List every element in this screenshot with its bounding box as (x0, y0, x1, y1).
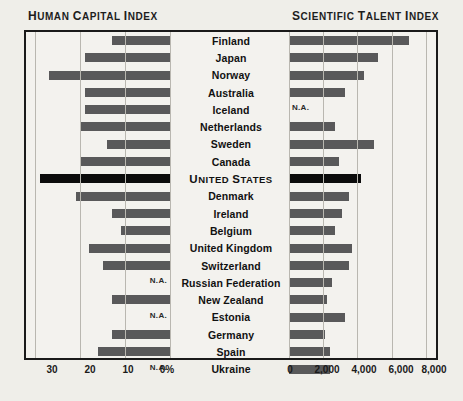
table-row: N.A. (26, 274, 170, 291)
table-row (289, 291, 436, 308)
table-row (26, 222, 170, 239)
bar-human-capital (76, 192, 171, 201)
scientific-talent-bar-rows: N.A. (289, 32, 436, 358)
country-row: Canada (168, 153, 294, 170)
human-capital-index-panel: N.A.N.A.N.A. (26, 32, 170, 358)
country-row: Denmark (168, 188, 294, 205)
bar-scientific-talent (289, 192, 349, 201)
table-row (289, 188, 436, 205)
tick-right-4000: 4,000 (351, 364, 376, 375)
table-row (289, 118, 436, 135)
table-row (289, 240, 436, 257)
country-row: Iceland (168, 101, 294, 118)
country-label: Ireland (213, 208, 248, 220)
bar-human-capital (40, 174, 171, 183)
table-row (289, 222, 436, 239)
bar-scientific-talent (289, 71, 364, 80)
table-row (26, 84, 170, 101)
bar-scientific-talent (289, 313, 345, 322)
country-row: Sweden (168, 136, 294, 153)
table-row (26, 257, 170, 274)
table-row (289, 170, 436, 187)
country-label: Norway (212, 69, 251, 81)
country-label: Russian Federation (181, 277, 280, 289)
tick-right-2000: 2,000 (314, 364, 339, 375)
country-row: Ireland (168, 205, 294, 222)
gridline-left-20 (80, 32, 81, 358)
country-row: New Zealand (168, 291, 294, 308)
country-row: Japan (168, 49, 294, 66)
bar-human-capital (85, 88, 171, 97)
country-row: UNITED STATES (168, 170, 294, 187)
scientific-talent-index-panel: N.A. (289, 32, 436, 358)
country-label: Japan (216, 52, 247, 64)
country-row: Russian Federation (168, 274, 294, 291)
table-row (289, 343, 436, 360)
country-label: Denmark (208, 190, 254, 202)
table-row (26, 118, 170, 135)
human-capital-bar-rows: N.A.N.A.N.A. (26, 32, 170, 358)
bar-scientific-talent (289, 278, 332, 287)
country-label: Iceland (213, 104, 250, 116)
bar-scientific-talent (289, 209, 342, 218)
country-label: Switzerland (201, 260, 260, 272)
bar-scientific-talent (289, 88, 345, 97)
country-label: Sweden (211, 138, 251, 150)
bar-scientific-talent (289, 244, 352, 253)
bar-scientific-talent (289, 140, 374, 149)
country-row: Germany (168, 326, 294, 343)
bar-human-capital (85, 53, 171, 62)
table-row (26, 291, 170, 308)
country-row: Netherlands (168, 118, 294, 135)
table-row (26, 67, 170, 84)
table-row (26, 136, 170, 153)
country-label-column: FinlandJapanNorwayAustraliaIcelandNether… (168, 32, 294, 378)
table-row (26, 326, 170, 343)
country-label: Belgium (210, 225, 252, 237)
bar-human-capital (121, 226, 171, 235)
bar-human-capital (112, 36, 171, 45)
table-row (289, 205, 436, 222)
table-row (289, 257, 436, 274)
gridline-right-4000 (357, 32, 358, 358)
bar-human-capital (112, 209, 171, 218)
bar-scientific-talent (289, 174, 361, 183)
table-row (26, 153, 170, 170)
left-panel-title: HUMAN CAPITAL INDEX (28, 9, 158, 23)
bar-human-capital (103, 261, 171, 270)
table-row: N.A. (26, 309, 170, 326)
country-label: Estonia (212, 311, 251, 323)
bar-human-capital (112, 330, 171, 339)
tick-right-8000: 8,000 (421, 364, 446, 375)
country-label: United Kingdom (190, 242, 272, 254)
country-row: United Kingdom (168, 240, 294, 257)
table-row (26, 188, 170, 205)
country-label: Finland (212, 35, 250, 47)
table-row (289, 136, 436, 153)
table-row (26, 32, 170, 49)
table-row (26, 101, 170, 118)
country-label: Netherlands (200, 121, 262, 133)
country-label: UNITED STATES (189, 173, 272, 185)
table-row (289, 153, 436, 170)
tick-right-0: 0 (287, 364, 293, 375)
gridline-left-10 (125, 32, 126, 358)
bar-human-capital (107, 140, 170, 149)
bar-human-capital (85, 105, 171, 114)
country-label: Germany (208, 329, 254, 341)
na-label: N.A. (150, 276, 167, 285)
bar-scientific-talent (289, 330, 325, 339)
right-panel-title: SCIENTIFIC TALENT INDEX (292, 9, 439, 23)
table-row (289, 84, 436, 101)
bar-scientific-talent (289, 261, 349, 270)
country-row: Estonia (168, 309, 294, 326)
right-axis-ticks: 02,0004,0006,0008,000 (0, 364, 463, 380)
table-row (26, 343, 170, 360)
bar-human-capital (98, 347, 170, 356)
table-row (289, 32, 436, 49)
country-label: Australia (208, 87, 254, 99)
chart-page: HUMAN CAPITAL INDEX SCIENTIFIC TALENT IN… (0, 0, 463, 401)
table-row (26, 240, 170, 257)
table-row (26, 205, 170, 222)
table-row (289, 67, 436, 84)
